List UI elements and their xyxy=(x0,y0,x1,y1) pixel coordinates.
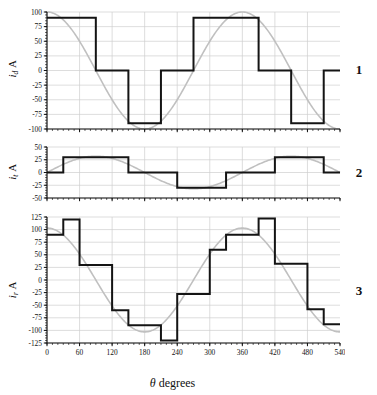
panel-3-plot: 1251007550250-25-50-75-100-1250601201802… xyxy=(0,209,345,374)
panel-1-ylabel-sub: d xyxy=(11,71,20,75)
svg-text:360: 360 xyxy=(237,348,248,357)
panel-3: 1251007550250-25-50-75-100-1250601201802… xyxy=(0,209,345,374)
x-axis-label: θ degrees xyxy=(0,376,345,391)
svg-text:50: 50 xyxy=(35,37,43,46)
svg-text:0: 0 xyxy=(38,276,42,285)
panel-3-ylabel-sub: r xyxy=(11,292,20,295)
svg-text:480: 480 xyxy=(302,348,313,357)
panel-1-index: 1 xyxy=(352,62,366,78)
svg-text:-100: -100 xyxy=(28,125,42,134)
svg-text:0: 0 xyxy=(38,168,42,177)
panel-2-ylabel-symbol: i xyxy=(6,177,18,180)
svg-text:25: 25 xyxy=(35,263,43,272)
svg-text:420: 420 xyxy=(269,348,280,357)
panel-3-ylabel-symbol: i xyxy=(6,295,18,298)
svg-text:25: 25 xyxy=(35,51,43,60)
svg-text:240: 240 xyxy=(172,348,183,357)
svg-text:300: 300 xyxy=(204,348,215,357)
svg-text:-25: -25 xyxy=(32,81,42,90)
panel-2-ylabel-unit: A xyxy=(6,164,18,172)
waveform-figure: 1007550250-25-50-75-100 1 id A 50250-25-… xyxy=(0,0,377,395)
svg-text:0: 0 xyxy=(45,348,49,357)
svg-text:50: 50 xyxy=(35,250,43,259)
panel-1-ylabel: id A xyxy=(6,47,20,91)
svg-text:120: 120 xyxy=(107,348,118,357)
svg-text:-100: -100 xyxy=(28,326,42,335)
panel-2: 50250-25-50 xyxy=(0,139,345,208)
svg-text:60: 60 xyxy=(76,348,84,357)
svg-text:-25: -25 xyxy=(32,288,42,297)
panel-2-ylabel-sub: t xyxy=(11,175,20,177)
svg-text:180: 180 xyxy=(139,348,150,357)
panel-3-index: 3 xyxy=(352,283,366,299)
panel-1-ylabel-unit: A xyxy=(6,60,18,68)
svg-text:0: 0 xyxy=(38,66,42,75)
svg-text:-125: -125 xyxy=(28,339,42,348)
panel-3-ylabel-unit: A xyxy=(6,281,18,289)
panel-1-plot: 1007550250-25-50-75-100 xyxy=(0,2,345,140)
svg-text:-75: -75 xyxy=(32,313,42,322)
panel-2-ylabel: it A xyxy=(6,150,20,194)
panel-1: 1007550250-25-50-75-100 xyxy=(0,2,345,140)
svg-text:-50: -50 xyxy=(32,95,42,104)
svg-text:50: 50 xyxy=(35,143,43,152)
svg-text:100: 100 xyxy=(31,225,42,234)
svg-text:75: 75 xyxy=(35,238,43,247)
svg-text:-25: -25 xyxy=(32,181,42,190)
svg-text:-75: -75 xyxy=(32,110,42,119)
svg-text:75: 75 xyxy=(35,22,43,31)
panel-2-plot: 50250-25-50 xyxy=(0,139,345,208)
svg-text:25: 25 xyxy=(35,155,43,164)
svg-text:-50: -50 xyxy=(32,301,42,310)
svg-text:-50: -50 xyxy=(32,194,42,203)
svg-text:540: 540 xyxy=(334,348,345,357)
svg-text:100: 100 xyxy=(31,8,42,17)
svg-text:125: 125 xyxy=(31,213,42,222)
panel-2-index: 2 xyxy=(352,165,366,181)
x-axis-label-text: degrees xyxy=(156,376,196,390)
panel-3-ylabel: ir A xyxy=(6,268,20,312)
panel-1-ylabel-symbol: i xyxy=(6,75,18,78)
